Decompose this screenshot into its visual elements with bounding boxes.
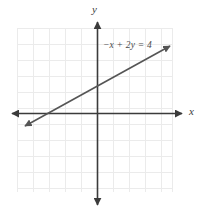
coordinate-plane <box>0 0 207 214</box>
x-axis-label: x <box>189 106 194 117</box>
grid-lines <box>17 28 173 192</box>
y-axis-label: y <box>92 4 97 15</box>
equation-label: −x + 2y = 4 <box>103 41 152 51</box>
graph-figure: y x −x + 2y = 4 <box>0 0 207 214</box>
